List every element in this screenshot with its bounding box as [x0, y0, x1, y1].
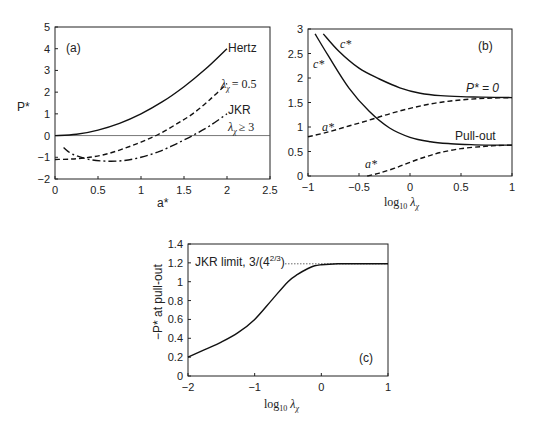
lambda-0.5-label: λχ= 0.5 [220, 77, 257, 93]
series-line [55, 84, 227, 160]
x-tick-label: 0.5 [90, 184, 105, 196]
a-star-lower-label: a* [365, 157, 377, 171]
panel-a-chart: 00.511.522.5543210−1−2 (a) P* a* Hertz λ… [17, 21, 278, 210]
y-tick-label: 4 [44, 43, 50, 55]
y-tick-label: 2.5 [288, 48, 303, 60]
series-line [64, 114, 227, 161]
y-tick-label: 0 [297, 170, 303, 182]
panel-c-ylabel: −P* at pull-out [151, 264, 165, 340]
x-tick-label: −1 [302, 181, 315, 193]
y-tick-label: 0.4 [168, 332, 183, 344]
p-zero-label: P* = 0 [466, 81, 499, 95]
series-line [55, 49, 227, 136]
y-tick-label: 1 [297, 121, 303, 133]
y-tick-label: 1 [44, 108, 50, 120]
x-tick-label: 0 [52, 184, 58, 196]
panel-c-chart: −2−1011.41.210.80.60.40.20 JKR limit, 3/… [151, 238, 391, 413]
panel-a-ylabel: P* [17, 100, 30, 114]
panel-b-chart: −1−0.500.5132.521.510.50 (b) c* c* P* = … [288, 23, 515, 211]
c-star-lower-label: c* [313, 57, 324, 71]
x-tick-label: 0 [407, 181, 413, 193]
y-tick-label: 3 [297, 23, 303, 35]
panel-b-label: (b) [478, 39, 493, 53]
figure: 00.511.522.5543210−1−2 (a) P* a* Hertz λ… [0, 0, 534, 425]
y-tick-label: 0.2 [168, 351, 183, 363]
hertz-label: Hertz [228, 41, 257, 55]
x-tick-label: 1.5 [176, 184, 191, 196]
c-star-upper-label: c* [340, 37, 351, 51]
x-tick-label: 1 [385, 381, 391, 393]
pull-out-label: Pull-out [455, 129, 496, 143]
y-tick-label: 5 [44, 21, 50, 33]
panel-c-series [188, 264, 388, 357]
y-tick-label: 0.8 [168, 295, 183, 307]
y-tick-label: 1.2 [168, 257, 183, 269]
y-tick-label: −1 [37, 151, 50, 163]
y-tick-label: 0.6 [168, 313, 183, 325]
y-tick-label: 1.5 [288, 97, 303, 109]
y-tick-label: 1.4 [168, 238, 183, 250]
y-tick-label: 2 [297, 72, 303, 84]
y-tick-label: 0.5 [288, 146, 303, 158]
x-tick-label: 1 [138, 184, 144, 196]
y-tick-label: 0 [177, 370, 183, 382]
panel-b-xlabel: log10λχ [384, 195, 420, 211]
y-tick-label: 0 [44, 130, 50, 142]
lambda-geq-3-label: λχ≥ 3 [227, 120, 254, 136]
x-tick-label: 2.5 [262, 184, 277, 196]
a-star-upper-label: a* [322, 120, 334, 134]
y-tick-label: 2 [44, 86, 50, 98]
y-tick-label: 3 [44, 64, 50, 76]
panel-a-label: (a) [66, 41, 81, 55]
panel-c-label: (c) [359, 351, 373, 365]
x-tick-label: −0.5 [348, 181, 370, 193]
x-tick-label: 0.5 [453, 181, 468, 193]
y-tick-label: 1 [177, 276, 183, 288]
series-line [188, 264, 388, 357]
x-tick-label: −2 [182, 381, 195, 393]
x-tick-label: 2 [224, 184, 230, 196]
jkr-label: JKR [228, 103, 251, 117]
y-tick-label: −2 [37, 173, 50, 185]
x-tick-label: −1 [248, 381, 261, 393]
panel-b-series [308, 34, 512, 176]
x-tick-label: 0 [318, 381, 324, 393]
series-line [367, 145, 512, 176]
panel-a-xlabel: a* [157, 196, 169, 210]
panel-c-xlabel: log10λχ [264, 397, 300, 413]
x-tick-label: 1 [509, 181, 515, 193]
jkr-limit-label: JKR limit, 3/(42/3) [195, 254, 285, 269]
